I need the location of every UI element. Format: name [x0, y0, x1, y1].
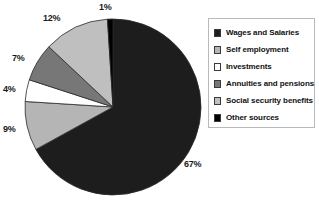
legend-swatch-self-employment — [214, 46, 221, 54]
legend-label: Wages and Salaries — [226, 28, 299, 37]
pie-chart-figure: 1%12%7%4%9%67% Wages and Salaries Self e… — [0, 0, 319, 205]
legend-item[interactable]: Social security benefits — [214, 92, 314, 109]
legend-label: Social security benefits — [226, 96, 313, 105]
legend-label: Self employment — [226, 45, 289, 54]
legend-label: Annuities and pensions — [226, 79, 314, 88]
legend-swatch-other-sources — [214, 114, 221, 122]
legend-item[interactable]: Investments — [214, 58, 314, 75]
legend-item[interactable]: Self employment — [214, 41, 314, 58]
pie-percentage-label: 1% — [99, 2, 112, 12]
chart-legend: Wages and Salaries Self employment Inves… — [208, 18, 315, 128]
pie-slices-group — [25, 19, 201, 195]
pie-chart-graphic — [0, 0, 208, 205]
pie-percentage-label: 9% — [3, 124, 16, 134]
pie-percentage-label: 4% — [3, 84, 16, 94]
legend-swatch-annuities-and-pensions — [214, 80, 221, 88]
legend-item[interactable]: Other sources — [214, 109, 314, 126]
pie-percentage-label: 7% — [12, 53, 25, 63]
legend-swatch-wages-and-salaries — [214, 29, 221, 37]
legend-swatch-investments — [214, 63, 221, 71]
legend-item[interactable]: Annuities and pensions — [214, 75, 314, 92]
legend-swatch-social-security-benefits — [214, 97, 221, 105]
legend-label: Investments — [226, 62, 272, 71]
legend-label: Other sources — [226, 113, 279, 122]
legend-item[interactable]: Wages and Salaries — [214, 24, 314, 41]
pie-percentage-label: 12% — [43, 13, 60, 23]
pie-percentage-label: 67% — [184, 159, 201, 169]
